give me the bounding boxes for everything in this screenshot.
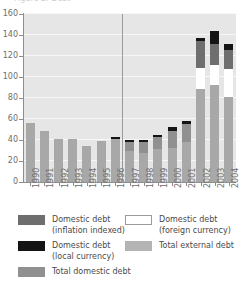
x-axis-tick <box>101 183 102 186</box>
x-axis-tick-label: 2002 <box>204 168 212 188</box>
bar-segment-domestic_local <box>153 135 162 137</box>
x-axis-tick-label: 1999 <box>161 168 169 188</box>
bar-segment-domestic_foreign <box>224 69 233 97</box>
x-axis-tick-label: 1996 <box>118 168 126 188</box>
x-axis-tick <box>59 183 60 186</box>
legend-label-line2: (inflation indexed) <box>52 225 125 236</box>
y-axis-tick <box>19 98 23 99</box>
bar-segment-domestic_total <box>153 137 162 150</box>
x-axis-tick <box>215 183 216 186</box>
bar-1993 <box>68 14 77 182</box>
bar-segment-domestic_total <box>125 142 134 150</box>
bar-segment-domestic_local <box>210 31 219 45</box>
plot-area <box>23 14 236 182</box>
legend-swatch-ext <box>125 241 152 251</box>
x-axis-tick <box>130 183 131 186</box>
x-axis-tick <box>201 183 202 186</box>
y-axis-tick <box>19 182 23 183</box>
y-axis-tick <box>19 119 23 120</box>
bar-segment-domestic_total <box>139 142 148 153</box>
legend-label: Total external debt <box>159 240 234 251</box>
y-axis-tick <box>19 140 23 141</box>
y-axis-tick-label: 120 <box>3 52 18 60</box>
bar-segment-domestic_local <box>125 140 134 142</box>
x-axis-tick-label: 1994 <box>90 168 98 188</box>
bar-1994 <box>82 14 91 182</box>
legend-swatch-forx <box>125 215 152 225</box>
legend-swatch-dom <box>18 267 45 277</box>
bar-1995 <box>97 14 106 182</box>
legend-label: Total domestic debt <box>52 266 131 277</box>
period-divider <box>122 14 123 182</box>
bar-1992 <box>54 14 63 182</box>
legend-swatch-infl <box>18 215 45 225</box>
legend-swatch-loc <box>18 241 45 251</box>
bar-1998 <box>139 14 148 182</box>
bar-2004 <box>224 14 233 182</box>
y-axis-tick-label: 160 <box>3 10 18 18</box>
chart-title-clipped: Figure 2. Debt <box>0 0 241 8</box>
x-axis-tick-label: 1993 <box>76 168 84 188</box>
bar-segment-domestic_inflation <box>196 41 205 67</box>
bar-segment-domestic_local <box>168 127 177 130</box>
x-axis-tick-label: 1990 <box>33 168 41 188</box>
bar-segment-domestic_local <box>196 38 205 41</box>
bar-segment-domestic_foreign <box>196 68 205 89</box>
bar-segment-domestic_local <box>111 137 120 139</box>
bar-2001 <box>182 14 191 182</box>
y-axis-tick <box>19 14 23 15</box>
x-axis-tick <box>172 183 173 186</box>
y-axis-tick <box>19 56 23 57</box>
x-axis-tick <box>229 183 230 186</box>
x-axis-tick <box>73 183 74 186</box>
bar-segment-domestic_local <box>224 44 233 49</box>
y-axis-tick-label: 0 <box>13 178 18 186</box>
bar-1990 <box>26 14 35 182</box>
x-axis-tick-label: 1991 <box>47 168 55 188</box>
bar-segment-domestic_inflation <box>210 44 219 65</box>
y-axis-tick <box>19 77 23 78</box>
legend-label-line2: (foreign currency) <box>159 225 231 236</box>
bar-2000 <box>168 14 177 182</box>
x-axis-tick-label: 2001 <box>189 168 197 188</box>
bar-segment-domestic_inflation <box>224 50 233 69</box>
bar-segment-domestic_foreign <box>210 65 219 85</box>
x-axis-tick-label: 1992 <box>62 168 70 188</box>
x-axis-tick <box>115 183 116 186</box>
bar-segment-domestic_local <box>182 121 191 124</box>
x-axis-tick <box>30 183 31 186</box>
y-axis-line <box>23 13 24 183</box>
y-axis-tick-label: 40 <box>8 136 18 144</box>
chart-figure: Figure 2. Debt 020406080100120140160 199… <box>0 0 241 285</box>
x-axis-tick <box>144 183 145 186</box>
y-axis-tick-label: 140 <box>3 31 18 39</box>
x-axis-tick <box>44 183 45 186</box>
y-axis-tick <box>19 161 23 162</box>
y-axis-tick-label: 100 <box>3 73 18 81</box>
bar-segment-domestic_local <box>139 140 148 142</box>
legend-label: Domestic debt <box>52 240 110 251</box>
x-axis-tick-label: 2003 <box>218 168 226 188</box>
x-axis-tick-label: 1995 <box>104 168 112 188</box>
y-axis-tick-label: 20 <box>8 157 18 165</box>
chart-legend: Domestic debt(inflation indexed)Domestic… <box>0 214 241 285</box>
bar-segment-domestic_total <box>182 124 191 142</box>
x-axis-tick-label: 2004 <box>232 168 240 188</box>
bar-2003 <box>210 14 219 182</box>
y-axis-tick <box>19 35 23 36</box>
x-axis-tick-label: 2000 <box>175 168 183 188</box>
legend-label: Domestic debt <box>52 214 110 225</box>
y-axis-tick-label: 80 <box>8 94 18 102</box>
bar-segment-domestic_total <box>168 131 177 149</box>
x-axis-tick-label: 1997 <box>133 168 141 188</box>
x-axis-tick <box>186 183 187 186</box>
bar-1997 <box>125 14 134 182</box>
bar-1999 <box>153 14 162 182</box>
bar-1996 <box>111 14 120 182</box>
legend-label: Domestic debt <box>159 214 217 225</box>
chart-title-text: Figure 2. Debt <box>14 0 70 3</box>
x-axis-tick-label: 1998 <box>147 168 155 188</box>
y-axis-tick-label: 60 <box>8 115 18 123</box>
x-axis-tick <box>87 183 88 186</box>
bar-1991 <box>40 14 49 182</box>
